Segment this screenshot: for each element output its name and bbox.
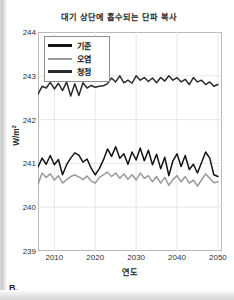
- x-tick-label: 2040: [168, 253, 186, 262]
- y-tick-label: 240: [2, 203, 36, 212]
- y-axis-label-exponent: 2: [11, 125, 17, 128]
- y-tick-label: 241: [2, 159, 36, 168]
- y-tick-label: 244: [2, 28, 36, 37]
- chart-title: 대기 상단에 흡수되는 단파 복사: [14, 10, 224, 22]
- legend-item-오염[interactable]: 오염: [48, 52, 106, 65]
- figure-panel-b: 대기 상단에 흡수되는 단파 복사 239240241242243244 201…: [0, 0, 234, 300]
- x-tick-label: 2030: [127, 253, 145, 262]
- y-tick-label: 243: [2, 71, 36, 80]
- x-axis-label: 연도: [38, 265, 222, 277]
- y-tick-label: 239: [2, 247, 36, 256]
- series-line-기준: [38, 147, 218, 177]
- legend-item-기준[interactable]: 기준: [48, 39, 106, 52]
- y-axis-label-text: W/m: [12, 128, 21, 145]
- legend-item-label: 청정: [77, 66, 91, 77]
- x-tick-label: 2010: [45, 253, 63, 262]
- legend-item-청정[interactable]: 청정: [48, 65, 106, 78]
- legend-item-label: 기준: [77, 40, 91, 51]
- x-tick-label: 2050: [209, 253, 227, 262]
- legend-line-swatch-icon: [48, 58, 72, 60]
- legend-line-swatch-icon: [48, 70, 72, 73]
- data-series-group: [38, 76, 218, 186]
- scan-bottom-band-artifact: [0, 290, 234, 300]
- y-axis-label: W/m2: [11, 113, 22, 157]
- x-tick-label: 2020: [86, 253, 104, 262]
- chart-legend[interactable]: 기준오염청정: [44, 36, 110, 82]
- series-line-오염: [38, 172, 218, 186]
- legend-line-swatch-icon: [48, 44, 72, 47]
- legend-item-label: 오염: [77, 53, 91, 64]
